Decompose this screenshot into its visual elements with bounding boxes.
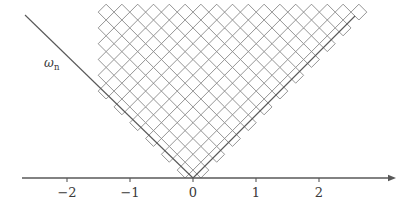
axis-line-and-ticks [22, 175, 396, 182]
lattice-diamond [193, 52, 209, 68]
lattice-diamond [146, 83, 162, 99]
lattice-diamond [130, 20, 146, 36]
lattice-diamond [240, 52, 256, 68]
lattice-diamond [146, 67, 162, 83]
lattice-diamond [225, 99, 241, 115]
axis-arrow-icon [388, 175, 396, 181]
lattice-diamond [240, 67, 256, 83]
tick-label-1: −1 [120, 186, 139, 199]
lattice-diamond [161, 83, 177, 99]
lattice-diamond [193, 146, 209, 162]
lattice-diamond [240, 20, 256, 36]
lattice-diamond [177, 99, 193, 115]
lattice-diamond [193, 99, 209, 115]
lattice-diamond [114, 52, 130, 68]
lattice-diamond [177, 131, 193, 147]
lattice-diamond [98, 67, 114, 83]
lattice-diamond [114, 99, 130, 115]
lattice-diamond [193, 131, 209, 147]
lattice-diamond [193, 67, 209, 83]
lattice-diamond [98, 83, 114, 99]
tick-label-4: 2 [315, 186, 323, 199]
lattice-diamond [161, 67, 177, 83]
lattice-diamond [304, 36, 320, 52]
lattice-diamond [177, 52, 193, 68]
lattice-diamond [288, 36, 304, 52]
lattice-diamond [146, 99, 162, 115]
lattice-diamond [177, 36, 193, 52]
lattice-diamond [288, 20, 304, 36]
lattice-diamond [193, 4, 209, 20]
lattice-diamond [177, 83, 193, 99]
lattice-diamond [177, 115, 193, 131]
lattice-diamond [272, 4, 288, 20]
lattice-diamond [272, 36, 288, 52]
lattice-diamond [114, 4, 130, 20]
lattice-diamond [177, 67, 193, 83]
lattice-diamond [240, 83, 256, 99]
lattice-diamond [130, 99, 146, 115]
lattice-diamond [225, 83, 241, 99]
lattice-diamond [161, 99, 177, 115]
tick-label-0: −2 [57, 186, 76, 199]
lattice-diamond [146, 52, 162, 68]
lattice-diamond [209, 4, 225, 20]
lattice-diamond [209, 52, 225, 68]
lattice-diamond [225, 20, 241, 36]
lattice-diamond [146, 131, 162, 147]
lattice-diamond [98, 20, 114, 36]
lattice-diamond [114, 67, 130, 83]
tick-label-3: 1 [252, 186, 260, 199]
lattice-diamond [209, 99, 225, 115]
lattice-diamond [177, 146, 193, 162]
cone-label-subscript: n [54, 62, 59, 72]
lattice-diamond [130, 52, 146, 68]
lattice-diamond [146, 115, 162, 131]
lattice-diamond [130, 36, 146, 52]
diamond-lattice [98, 4, 367, 178]
lattice-diamond [161, 20, 177, 36]
lattice-diamond [98, 36, 114, 52]
lattice-diamond [146, 36, 162, 52]
lattice-diamond [98, 4, 114, 20]
lattice-diamond [272, 52, 288, 68]
lattice-diamond [240, 4, 256, 20]
lattice-diamond [130, 83, 146, 99]
lattice-diamond [193, 36, 209, 52]
lattice-diamond [130, 115, 146, 131]
lattice-diamond [209, 36, 225, 52]
lattice-diamond [319, 20, 335, 36]
lattice-diamond [225, 115, 241, 131]
lattice-diamond [193, 20, 209, 36]
lattice-diamond [240, 99, 256, 115]
tick-label-2: 0 [189, 186, 197, 199]
lattice-diamond [146, 4, 162, 20]
lattice-diamond [256, 36, 272, 52]
lattice-diamond [177, 20, 193, 36]
lattice-diamond [304, 4, 320, 20]
lattice-diamond [256, 20, 272, 36]
lattice-diamond [225, 4, 241, 20]
lattice-diamond [130, 4, 146, 20]
lattice-diamond [209, 67, 225, 83]
lattice-diamond [161, 36, 177, 52]
cone-label: ωn [44, 57, 59, 69]
lattice-diamond [209, 131, 225, 147]
lattice-diamond [319, 4, 335, 20]
lattice-diamond [209, 115, 225, 131]
lattice-diamond [146, 20, 162, 36]
lattice-diamond [225, 36, 241, 52]
lattice-diamond [114, 83, 130, 99]
lattice-diamond [256, 67, 272, 83]
lattice-diamond [209, 20, 225, 36]
lattice-diamond [114, 36, 130, 52]
lattice-diamond [209, 83, 225, 99]
lattice-diamond [272, 67, 288, 83]
lattice-diamond [225, 67, 241, 83]
figure-canvas: −2−1012 ωn [0, 0, 414, 212]
lattice-diamond [256, 4, 272, 20]
lattice-diamond [114, 20, 130, 36]
plot-svg [0, 0, 414, 212]
lattice-diamond [177, 4, 193, 20]
lattice-diamond [288, 52, 304, 68]
